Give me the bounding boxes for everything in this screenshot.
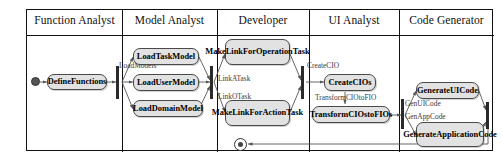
lane-divider-4 [399,10,400,152]
edge-label-gen-app-code: GenAppCode [405,112,446,121]
swimlane-frame: Function Analyst Model Analyst Developer… [26,9,493,151]
join-bar-developer [301,66,304,99]
activity-make-link-for-action-task[interactable]: MakeLinkForActionTask [225,100,290,126]
lane-title-function-analyst: Function Analyst [27,14,122,26]
lane-title-model-analyst: Model Analyst [122,14,217,26]
lane-divider-1 [122,10,123,152]
edge-label-gen-ui-code: GenUICode [405,99,441,108]
activity-load-domain-model[interactable]: LoadDomainModel [133,100,203,117]
lane-title-developer: Developer [217,14,309,26]
activity-transform-cios-to-fios[interactable]: TransformCIOstoFIOs [312,106,390,123]
activity-generate-application-code[interactable]: GenerateApplicationCode [416,122,484,147]
fork-bar-load-models [116,66,119,99]
activity-create-cios[interactable]: CreateCIOs [324,74,376,91]
activity-diagram: Function Analyst Model Analyst Developer… [0,0,503,168]
lane-divider-3 [309,10,310,152]
edge-generate-ui-code-to-join3 [479,91,486,110]
edge-operation-task-to-join2 [290,54,301,80]
join-bar-final [486,102,489,129]
activity-define-functions[interactable]: DefineFunctions [47,74,107,90]
initial-node [31,77,40,86]
edge-label-link-a-task: LinkATask [218,74,250,83]
edge-label-transform-cio-to-fio: TransformCIOtoFIO [315,93,376,102]
activity-make-link-for-operation-task[interactable]: MakeLinkForOperationTask [225,39,290,65]
join-bar-models [210,66,213,99]
lane-title-divider [27,35,494,36]
activity-load-task-model[interactable]: LoadTaskModel [133,48,199,65]
edge-fork1-to-load-domain [122,82,133,109]
activity-generate-ui-code[interactable]: GenerateUICode [416,82,479,99]
activity-load-user-model[interactable]: LoadUserModel [133,74,199,91]
final-node [234,138,247,151]
edge-load-task-to-join1 [199,57,210,80]
lane-title-ui-analyst: UI Analyst [309,14,399,26]
edge-label-create-cio: CreateCIO [307,61,339,70]
fork-bar-code-generator [401,99,404,129]
lane-title-code-generator: Code Generator [399,14,494,26]
